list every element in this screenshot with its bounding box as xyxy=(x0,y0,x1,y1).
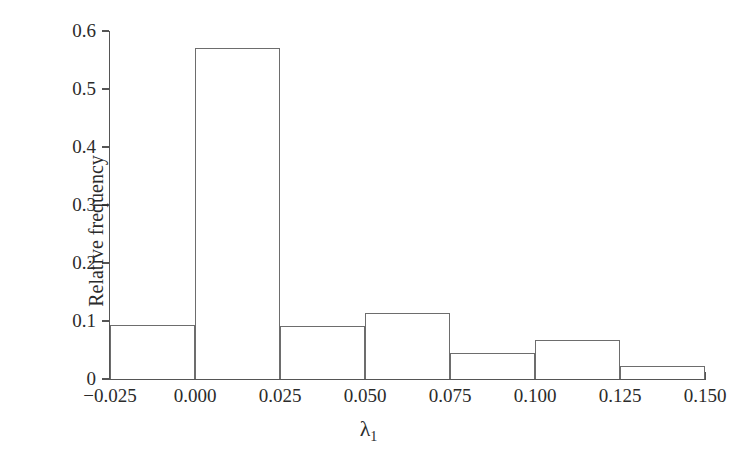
x-tick-label: 0.125 xyxy=(599,385,642,407)
y-tick-label: 0.2 xyxy=(0,253,96,272)
y-axis-title: Relative frequency xyxy=(85,155,108,307)
x-tick-label: 0.100 xyxy=(514,385,557,407)
histogram-bar xyxy=(110,325,195,379)
x-tick-label: 0.000 xyxy=(174,385,217,407)
y-tick-label: 0.3 xyxy=(0,195,96,214)
y-tick-mark xyxy=(102,146,109,147)
histogram-bar xyxy=(535,340,620,379)
y-tick-mark xyxy=(102,378,109,379)
x-tick-label: 0.050 xyxy=(344,385,387,407)
x-tick-label: 0.025 xyxy=(259,385,302,407)
plot-area xyxy=(110,31,705,379)
y-tick-label: 0 xyxy=(0,369,96,388)
x-axis-title-symbol: λ xyxy=(360,416,371,441)
x-axis-title-subscript: 1 xyxy=(370,429,377,444)
y-tick-mark xyxy=(102,320,109,321)
histogram-bar xyxy=(280,326,365,379)
chart-page: 00.10.20.30.40.50.6 −0.0250.0000.0250.05… xyxy=(0,0,737,462)
y-tick-mark xyxy=(102,88,109,89)
y-tick-label: 0.4 xyxy=(0,137,96,156)
x-tick-label: 0.150 xyxy=(684,385,727,407)
histogram-bar xyxy=(365,313,450,379)
histogram-bar xyxy=(450,353,535,379)
y-tick-label: 0.6 xyxy=(0,21,96,40)
y-tick-mark xyxy=(102,30,109,31)
x-tick-label: −0.025 xyxy=(83,385,136,407)
x-axis-title: λ1 xyxy=(0,416,737,442)
histogram-bar xyxy=(195,48,280,379)
histogram-bar xyxy=(620,366,705,379)
x-tick-label: 0.075 xyxy=(429,385,472,407)
y-tick-label: 0.1 xyxy=(0,311,96,330)
y-tick-label: 0.5 xyxy=(0,79,96,98)
